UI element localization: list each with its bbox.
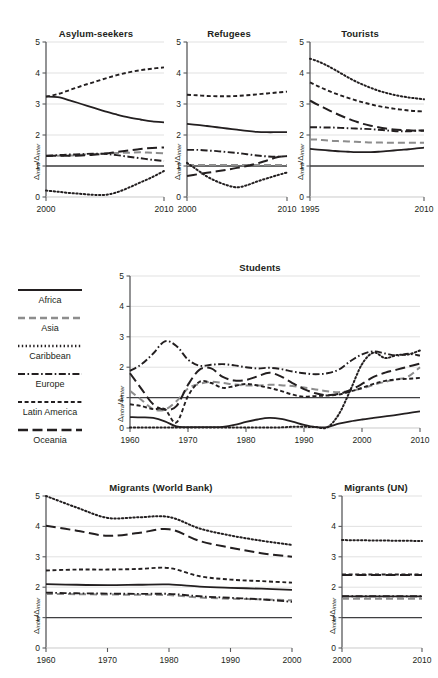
chart-svg-refugees: 01234520002010 — [187, 42, 301, 219]
panel-title-migrants-un: Migrants (UN) — [320, 482, 432, 493]
svg-text:4: 4 — [35, 521, 40, 531]
svg-text:2: 2 — [35, 582, 40, 592]
svg-text:5: 5 — [35, 37, 40, 47]
svg-text:2: 2 — [35, 130, 40, 140]
series-line-europe — [130, 341, 420, 374]
svg-text:2: 2 — [331, 582, 336, 592]
series-line-europe — [46, 593, 292, 602]
svg-text:2000: 2000 — [178, 204, 197, 214]
svg-text:1: 1 — [176, 161, 181, 171]
svg-text:0: 0 — [119, 423, 124, 433]
series-line-africa — [46, 97, 164, 123]
svg-text:2000: 2000 — [283, 655, 302, 665]
svg-text:0: 0 — [35, 643, 40, 653]
svg-text:5: 5 — [35, 491, 40, 501]
series-line-oceania — [46, 526, 292, 557]
series-line-africa — [130, 411, 420, 427]
svg-text:4: 4 — [119, 301, 124, 311]
plot-asylum: 01234520002010 — [46, 42, 178, 219]
svg-text:1970: 1970 — [179, 435, 198, 445]
svg-text:0: 0 — [299, 192, 304, 202]
series-line-caribbean — [46, 171, 164, 195]
series-line-europe — [187, 150, 287, 157]
svg-text:2: 2 — [119, 362, 124, 372]
chart-svg-asylum: 01234520002010 — [46, 42, 178, 219]
plot-tourists: 01234519952010 — [310, 42, 438, 219]
series-line-africa — [310, 148, 424, 152]
svg-text:5: 5 — [331, 491, 336, 501]
svg-text:0: 0 — [176, 192, 181, 202]
series-line-latin-america — [46, 67, 164, 96]
svg-text:2000: 2000 — [353, 435, 372, 445]
series-line-africa — [187, 124, 287, 132]
panel-asylum-seekers: Asylum-seekers Δintra/Δinter 01234520002… — [22, 28, 170, 218]
svg-text:1: 1 — [119, 393, 124, 403]
legend-item-africa: Africa — [18, 286, 96, 314]
svg-text:4: 4 — [299, 68, 304, 78]
legend-label-africa: Africa — [18, 295, 82, 305]
series-line-asia — [310, 139, 424, 142]
legend-label-caribbean: Caribbean — [18, 351, 82, 361]
legend-swatch-caribbean — [18, 344, 82, 347]
svg-text:1: 1 — [35, 161, 40, 171]
svg-text:1995: 1995 — [301, 204, 320, 214]
svg-text:5: 5 — [299, 37, 304, 47]
legend-swatch-asia — [18, 316, 82, 319]
legend-label-asia: Asia — [18, 323, 82, 333]
svg-text:0: 0 — [35, 192, 40, 202]
series-line-europe — [46, 154, 164, 161]
panel-migrants-world-bank: Migrants (World Bank) Δintra/Δinter 0123… — [22, 482, 300, 672]
svg-text:1980: 1980 — [237, 435, 256, 445]
series-line-oceania — [130, 364, 420, 410]
legend-item-asia: Asia — [18, 314, 96, 342]
svg-text:2000: 2000 — [333, 655, 352, 665]
legend-item-latin-america: Latin America — [18, 398, 96, 426]
svg-text:1960: 1960 — [121, 435, 140, 445]
svg-text:4: 4 — [176, 68, 181, 78]
chart-svg-migrants_un: 01234520002010 — [342, 496, 436, 670]
chart-legend: Africa Asia Caribbean Europe Latin Ameri… — [18, 286, 96, 454]
svg-text:1990: 1990 — [295, 435, 314, 445]
chart-svg-students: 012345196019701980199020002010 — [130, 276, 434, 450]
legend-label-europe: Europe — [18, 379, 82, 389]
panel-title-refugees: Refugees — [165, 28, 293, 39]
series-line-caribbean — [46, 496, 292, 545]
svg-text:4: 4 — [331, 521, 336, 531]
legend-label-oceania: Oceania — [18, 435, 82, 445]
svg-text:1: 1 — [331, 613, 336, 623]
svg-text:3: 3 — [35, 99, 40, 109]
svg-text:1980: 1980 — [160, 655, 179, 665]
chart-svg-tourists: 01234519952010 — [310, 42, 438, 219]
svg-text:3: 3 — [299, 99, 304, 109]
svg-text:3: 3 — [331, 552, 336, 562]
series-line-oceania — [310, 101, 424, 131]
svg-text:1990: 1990 — [221, 655, 240, 665]
svg-text:1960: 1960 — [37, 655, 56, 665]
svg-text:3: 3 — [176, 99, 181, 109]
svg-text:2000: 2000 — [37, 204, 56, 214]
plot-refugees: 01234520002010 — [187, 42, 301, 219]
svg-text:5: 5 — [119, 271, 124, 281]
legend-swatch-africa — [18, 288, 82, 291]
legend-swatch-europe — [18, 372, 82, 375]
svg-text:2010: 2010 — [411, 435, 430, 445]
series-line-latin-america — [187, 92, 287, 97]
panel-students: Students Δintra/Δinter 01234519601970198… — [108, 262, 432, 462]
y-axis-label-students: Δintra/Δinter — [116, 386, 125, 422]
svg-text:5: 5 — [176, 37, 181, 47]
panel-title-tourists: Tourists — [288, 28, 432, 39]
panel-title-asylum: Asylum-seekers — [22, 28, 170, 39]
panel-refugees: Refugees Δintra/Δinter 01234520002010 — [165, 28, 293, 218]
chart-svg-migrants_wb: 01234519601970198019902000 — [46, 496, 306, 670]
svg-text:2: 2 — [299, 130, 304, 140]
legend-item-europe: Europe — [18, 370, 96, 398]
plot-migrants-un: 01234520002010 — [342, 496, 436, 670]
svg-text:2010: 2010 — [415, 204, 434, 214]
svg-text:2010: 2010 — [413, 655, 432, 665]
svg-text:0: 0 — [331, 643, 336, 653]
panel-tourists: Tourists Δintra/Δinter 01234519952010 — [288, 28, 432, 218]
legend-item-caribbean: Caribbean — [18, 342, 96, 370]
svg-text:2: 2 — [176, 130, 181, 140]
plot-migrants-wb: 01234519601970198019902000 — [46, 496, 306, 670]
series-line-latin-america — [46, 568, 292, 583]
